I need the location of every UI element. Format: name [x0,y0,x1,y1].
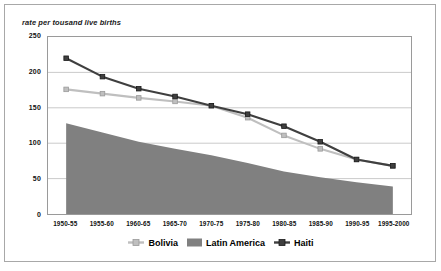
legend-label: Latin America [206,239,265,248]
plot-area [47,36,412,215]
y-axis-tick-0: 0 [7,211,41,218]
chart-canvas [48,37,411,214]
datapoint-bolivia-1965-70 [173,99,178,104]
line-square-marker-icon [274,238,290,249]
datapoint-haiti-1985-90 [318,140,323,145]
legend-label: Haiti [294,239,314,248]
datapoint-haiti-1970-75 [209,103,214,108]
legend-label: Bolivia [148,239,178,248]
datapoint-haiti-1995-2000 [391,164,396,169]
datapoint-haiti-1960-65 [136,86,141,91]
x-axis-tick-1955-60: 1955-60 [84,220,121,227]
datapoint-haiti-1975-80 [245,112,250,117]
series-area-latin-america [66,123,393,214]
datapoint-haiti-1950-55 [64,56,69,61]
y-axis-tick-150: 150 [7,104,41,111]
x-axis-tick-1995-2000: 1995-2000 [376,220,413,227]
datapoint-bolivia-1955-60 [100,91,105,96]
x-axis-tick-1965-70: 1965-70 [157,220,194,227]
legend-entry-haiti: Haiti [274,238,314,249]
x-axis-tick-1970-75: 1970-75 [193,220,230,227]
x-axis-tick-1980-85: 1980-85 [266,220,303,227]
datapoint-haiti-1980-85 [282,124,287,129]
datapoint-bolivia-1985-90 [318,147,323,152]
y-axis-title: rate per tousand live births [22,18,121,27]
chart-frame: rate per tousand live births 05010015020… [4,4,436,262]
line-square-marker-icon [128,238,144,249]
legend-entry-bolivia: Bolivia [128,238,178,249]
chart-legend: BoliviaLatin AmericaHaiti [5,238,437,249]
datapoint-bolivia-1980-85 [282,133,287,138]
datapoint-haiti-1990-95 [354,157,359,162]
x-axis-tick-1960-65: 1960-65 [120,220,157,227]
area-swatch-icon [187,238,202,249]
legend-entry-latin-america: Latin America [187,238,265,249]
datapoint-haiti-1965-70 [173,94,178,99]
datapoint-bolivia-1950-55 [64,87,69,92]
y-axis-tick-200: 200 [7,68,41,75]
x-axis-tick-1985-90: 1985-90 [303,220,340,227]
y-axis-tick-50: 50 [7,175,41,182]
y-axis-tick-100: 100 [7,139,41,146]
x-axis-tick-1950-55: 1950-55 [47,220,84,227]
x-axis-tick-1990-95: 1990-95 [339,220,376,227]
y-axis-tick-250: 250 [7,32,41,39]
datapoint-haiti-1955-60 [100,74,105,79]
x-axis-tick-1975-80: 1975-80 [230,220,267,227]
datapoint-bolivia-1960-65 [136,96,141,101]
